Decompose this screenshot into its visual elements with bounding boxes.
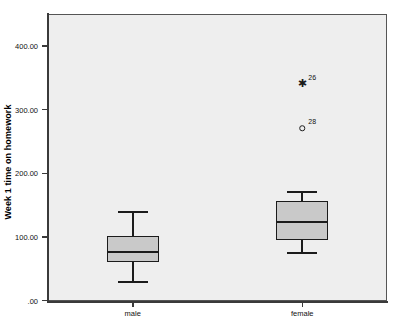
outlier-label-26: 26 bbox=[308, 74, 316, 81]
median-line-female bbox=[276, 221, 328, 223]
whisker-lower-cap bbox=[287, 252, 317, 254]
boxplot-chart: Week 1 time on homework .00100.00200.003… bbox=[0, 0, 408, 324]
box-group-female: ✱2628 bbox=[0, 0, 408, 324]
whisker-lower-stem bbox=[301, 240, 303, 252]
whisker-upper-cap bbox=[287, 191, 317, 193]
outlier-label-28: 28 bbox=[308, 118, 316, 125]
outlier-circle-marker bbox=[300, 125, 306, 131]
